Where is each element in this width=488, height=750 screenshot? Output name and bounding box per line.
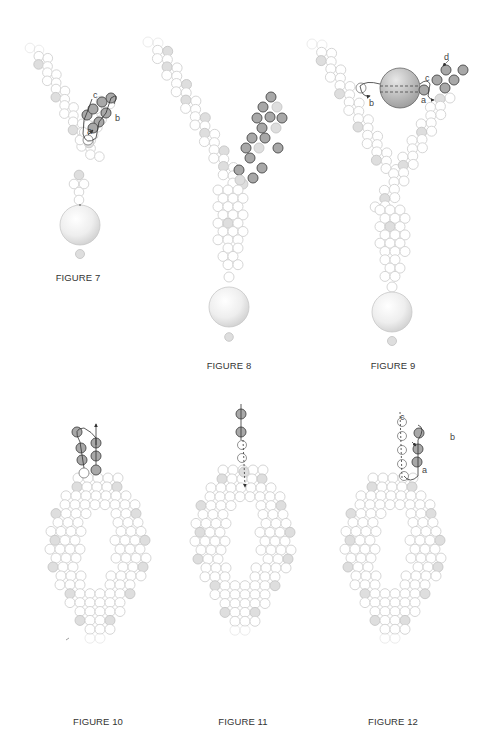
accent-bead (257, 474, 267, 484)
seed-bead (25, 43, 35, 53)
seed-bead (260, 599, 270, 609)
seed-bead (275, 492, 285, 502)
seed-bead (190, 120, 200, 130)
seed-bead (416, 491, 426, 501)
accent-bead (125, 589, 135, 599)
seed-bead (56, 571, 66, 581)
thread-path (66, 638, 69, 640)
seed-bead (201, 563, 211, 573)
accent-bead (343, 562, 353, 572)
figure-10-diagram (45, 424, 151, 643)
seed-bead (390, 271, 400, 281)
seed-bead (371, 571, 381, 581)
accent-bead (131, 509, 141, 519)
seed-bead (413, 562, 423, 572)
seed-bead (325, 72, 335, 82)
seed-bead (235, 492, 245, 502)
seed-bead (368, 473, 378, 483)
bead-diagram-canvas: cbadcbacba (0, 0, 488, 750)
path-label-b: b (369, 98, 374, 108)
accent-bead (72, 482, 82, 492)
seed-bead (130, 500, 140, 510)
seed-bead (436, 110, 446, 120)
seed-bead (211, 563, 221, 573)
seed-bead (203, 554, 213, 564)
seed-bead (110, 535, 120, 545)
seed-bead (130, 535, 140, 545)
seed-bead (258, 465, 268, 475)
seed-bead (76, 526, 86, 536)
seed-bead (79, 468, 89, 478)
seed-bead (95, 633, 105, 643)
seed-bead (421, 571, 431, 581)
accent-bead (217, 474, 227, 484)
dark-bead (440, 83, 450, 93)
seed-bead (83, 135, 93, 145)
seed-bead (66, 571, 76, 581)
seed-bead (271, 563, 281, 573)
seed-bead (356, 83, 366, 93)
seed-bead (256, 545, 266, 555)
accent-bead (346, 509, 356, 519)
seed-bead (86, 150, 96, 160)
dark-bead (412, 457, 422, 467)
seed-bead (60, 109, 70, 119)
seed-bead (120, 500, 130, 510)
seed-bead (126, 571, 136, 581)
accent-bead (235, 175, 245, 185)
seed-bead (110, 500, 120, 510)
seed-bead (81, 509, 91, 519)
accent-bead (435, 535, 445, 545)
seed-bead (388, 473, 398, 483)
path-label-c: c (425, 73, 430, 83)
seed-bead (120, 535, 130, 545)
seed-bead (377, 482, 387, 492)
accent-bead (420, 589, 430, 599)
seed-bead (250, 616, 260, 626)
seed-bead (65, 598, 75, 608)
seed-bead (205, 527, 215, 537)
seed-bead (425, 535, 435, 545)
accent-bead (50, 535, 60, 545)
seed-bead (356, 509, 366, 519)
dark-bead (432, 75, 442, 85)
seed-bead (223, 260, 233, 270)
path-label-d: d (444, 52, 449, 62)
seed-bead (261, 563, 271, 573)
seed-bead (251, 563, 261, 573)
accent-bead (193, 554, 203, 564)
seed-bead (411, 571, 421, 581)
seed-bead (340, 544, 350, 554)
seed-bead (45, 544, 55, 554)
seed-bead (181, 103, 191, 113)
seed-bead (224, 272, 234, 282)
seed-bead (408, 473, 418, 483)
path-label-b: b (450, 432, 455, 442)
seed-bead (245, 492, 255, 502)
seed-bead (76, 571, 86, 581)
seed-bead (105, 624, 115, 634)
accent-bead (316, 56, 326, 66)
accent-bead (68, 125, 78, 135)
seed-bead (136, 571, 146, 581)
dark-bead (266, 92, 276, 102)
seed-bead (417, 143, 427, 153)
accent-bead (367, 482, 377, 492)
seed-bead (162, 70, 172, 80)
seed-bead (378, 473, 388, 483)
seed-bead (121, 491, 131, 501)
seed-bead (248, 465, 258, 475)
seed-bead (266, 483, 276, 493)
path-label-a: a (87, 126, 92, 136)
seed-bead (406, 553, 416, 563)
seed-bead (42, 76, 52, 86)
seed-bead (61, 509, 71, 519)
seed-bead (215, 527, 225, 537)
figure-12-diagram (340, 412, 446, 643)
seed-bead (209, 153, 219, 163)
dark-bead (91, 465, 101, 475)
seed-bead (92, 482, 102, 492)
path-label-b: b (115, 113, 120, 123)
accent-bead (270, 581, 280, 591)
figure-7-diagram (25, 43, 116, 258)
